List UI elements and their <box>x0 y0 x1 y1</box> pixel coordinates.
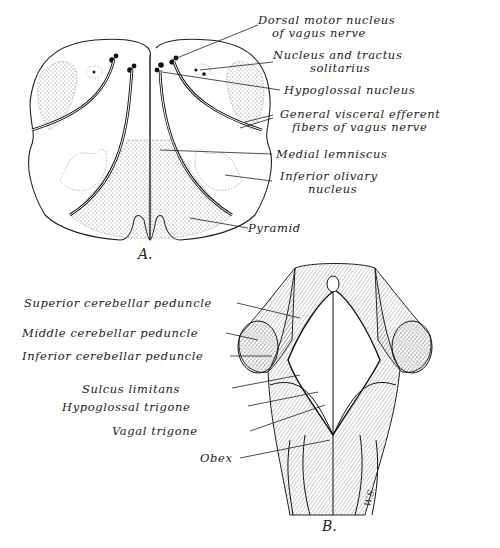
label-nucleus-tractus-solitarius: Nucleus and tractus <box>273 49 402 61</box>
label-pyramid: Pyramid <box>248 222 301 234</box>
label-hypoglossal-nucleus: Hypoglossal nucleus <box>284 84 415 96</box>
stippled-areas <box>38 61 264 238</box>
panel-b-letter: B. <box>322 518 337 534</box>
label-inferior-cerebellar-peduncle: Inferior cerebellar peduncle <box>22 350 203 362</box>
label-nucleus-tractus-solitarius-2: solitarius <box>310 62 370 74</box>
label-inferior-olivary-nucleus-2: nucleus <box>308 183 357 195</box>
label-medial-lemniscus: Medial lemniscus <box>276 148 388 160</box>
label-middle-cerebellar-peduncle: Middle cerebellar peduncle <box>22 327 198 339</box>
label-inferior-olivary-nucleus: Inferior olivary <box>280 170 378 182</box>
label-gve-fibers-2: fibers of vagus nerve <box>292 121 427 133</box>
anatomy-illustration <box>0 0 500 548</box>
right-peduncle-cut <box>392 321 432 373</box>
label-vagal-trigone: Vagal trigone <box>112 425 198 437</box>
label-dorsal-motor-nucleus: Dorsal motor nucleus <box>258 14 395 26</box>
panel-a-letter: A. <box>138 246 153 262</box>
label-superior-cerebellar-peduncle: Superior cerebellar peduncle <box>24 297 212 309</box>
label-gve-fibers: General visceral efferent <box>280 108 440 120</box>
label-obex: Obex <box>200 452 232 464</box>
label-hypoglossal-trigone: Hypoglossal trigone <box>62 401 190 413</box>
label-dorsal-motor-nucleus-2: of vagus nerve <box>272 27 366 39</box>
label-sulcus-limitans: Sulcus limitans <box>82 383 180 395</box>
middle-peduncle-cut <box>238 321 278 373</box>
